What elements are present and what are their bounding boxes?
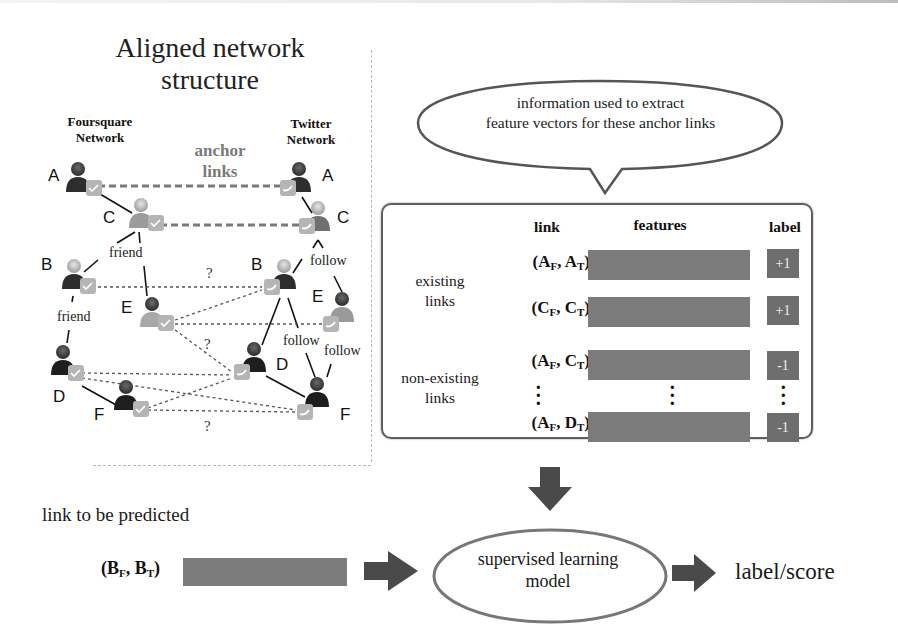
node-label-twitter-a: A — [322, 166, 333, 186]
model-line-1: supervised learning — [438, 548, 658, 570]
node-label-foursquare-d: D — [53, 387, 65, 407]
edge-label-friend-2: friend — [56, 309, 91, 325]
node-label-twitter-b: B — [251, 255, 262, 275]
header-label: label — [760, 218, 810, 236]
node-label-twitter-f: F — [340, 405, 350, 425]
foursquare-user-d-icon — [51, 345, 84, 381]
node-label-twitter-e: E — [312, 287, 323, 307]
panel-separator-vertical — [371, 50, 372, 462]
edge-label-follow-1: follow — [309, 253, 348, 269]
twitter-user-c-icon — [299, 201, 330, 234]
table-row-feature-bar-1 — [588, 297, 750, 327]
header-link: link — [522, 218, 572, 236]
twitter-user-f-icon — [297, 377, 329, 420]
table-row-feature-bar-0 — [588, 250, 750, 280]
node-label-foursquare-c: C — [103, 208, 115, 228]
ellipsis-features: ··· — [669, 383, 675, 407]
twitter-user-d-icon — [234, 342, 266, 380]
foursquare-user-b-icon — [62, 259, 96, 294]
header-features: features — [610, 216, 710, 234]
table-row-link-0: (AF, AT) — [480, 252, 590, 272]
table-row-label-1: +1 — [767, 296, 799, 325]
twitter-user-e-icon — [323, 292, 354, 332]
ellipsis-label: ··· — [780, 383, 786, 407]
group-existing-links: existing links — [385, 271, 495, 311]
table-row-link-3: (AF, DT) — [480, 413, 590, 433]
right-arrow-icon-1 — [362, 550, 422, 595]
supervised-learning-model-label: supervised learning model — [438, 548, 658, 592]
right-arrow-icon-2 — [670, 552, 720, 597]
node-label-foursquare-e: E — [121, 298, 132, 318]
node-label-foursquare-f: F — [94, 405, 104, 425]
table-row-link-1: (CF, CT) — [480, 298, 590, 318]
panel-separator-horizontal — [93, 465, 371, 466]
bubble-line-2: feature vectors for these anchor links — [433, 113, 768, 133]
unknown-link-mark-2: ? — [204, 336, 211, 353]
node-label-twitter-c: C — [337, 208, 349, 228]
existing-line-2: links — [385, 291, 495, 311]
node-label-foursquare-a: A — [48, 166, 59, 186]
unknown-link-mark-1: ? — [206, 265, 213, 282]
model-line-2: model — [438, 570, 658, 592]
unknown-link-mark-3: ? — [204, 418, 211, 435]
bubble-line-1: information used to extract — [433, 93, 768, 113]
edge-label-friend-1: friend — [108, 245, 143, 261]
existing-line-1: existing — [385, 271, 495, 291]
label-score-output: label/score — [735, 559, 835, 585]
non-existing-line-2: links — [385, 388, 495, 408]
non-existing-line-1: non-existing — [385, 368, 495, 388]
edge-label-follow-2: follow — [282, 333, 321, 349]
table-row-label-0: +1 — [767, 249, 799, 278]
ellipsis-link: ··· — [535, 383, 541, 407]
edge-label-follow-3: follow — [323, 343, 362, 359]
table-row-feature-bar-3 — [588, 412, 750, 442]
twitter-user-a-icon — [280, 162, 311, 196]
twitter-user-b-icon — [264, 259, 296, 295]
table-row-label-3: -1 — [767, 413, 799, 442]
predicted-link-feature-bar — [183, 558, 347, 586]
link-to-be-predicted-label: link to be predicted — [42, 504, 189, 526]
down-arrow-icon — [520, 465, 580, 525]
group-non-existing-links: non-existing links — [385, 368, 495, 408]
foursquare-user-f-icon — [114, 380, 149, 417]
table-row-link-2: (AF, CT) — [480, 351, 590, 371]
predicted-link: (BF, BT) — [60, 558, 160, 579]
foursquare-user-e-icon — [140, 297, 174, 331]
foursquare-user-a-icon — [66, 162, 102, 196]
bubble-text: information used to extract feature vect… — [433, 93, 768, 133]
foursquare-user-c-icon — [129, 198, 164, 231]
node-label-twitter-d: D — [276, 355, 288, 375]
node-label-foursquare-b: B — [41, 255, 52, 275]
